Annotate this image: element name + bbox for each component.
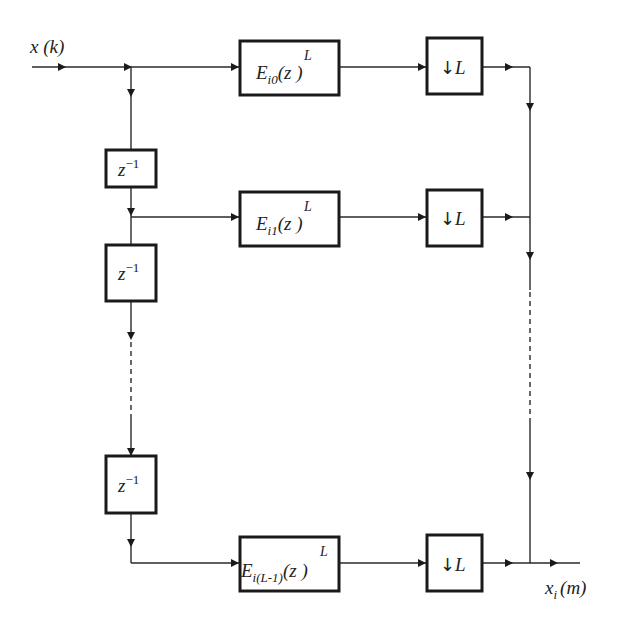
down-arrow-icon: ↓ (440, 57, 455, 78)
down-arrow-icon: ↓ (440, 554, 455, 575)
filter-label-1: Ei1(z ) (256, 214, 303, 233)
input-label: x (k) (30, 37, 64, 56)
filter-sup-0: L (304, 49, 312, 63)
downsampler-label-0: ↓L (440, 58, 466, 77)
delay-label-1: z−1 (118, 160, 139, 179)
delay-label-2: z−1 (118, 264, 139, 283)
branch-paths (340, 63, 580, 567)
filter-sup-1: L (304, 200, 312, 214)
filter-label-0: Ei0(z ) (256, 63, 303, 82)
downsampler-label-last: ↓L (440, 555, 466, 574)
block-diagram (0, 0, 623, 623)
input-signal-path (32, 63, 240, 71)
output-label: xi(m) (545, 578, 586, 597)
output-bus (526, 67, 534, 563)
downsampler-label-1: ↓L (440, 209, 466, 228)
down-arrow-icon: ↓ (440, 208, 455, 229)
filter-sup-last: L (320, 545, 328, 559)
filter-label-last: Ei(L-1)(z ) (241, 561, 308, 580)
delay-label-3: z−1 (118, 476, 139, 495)
